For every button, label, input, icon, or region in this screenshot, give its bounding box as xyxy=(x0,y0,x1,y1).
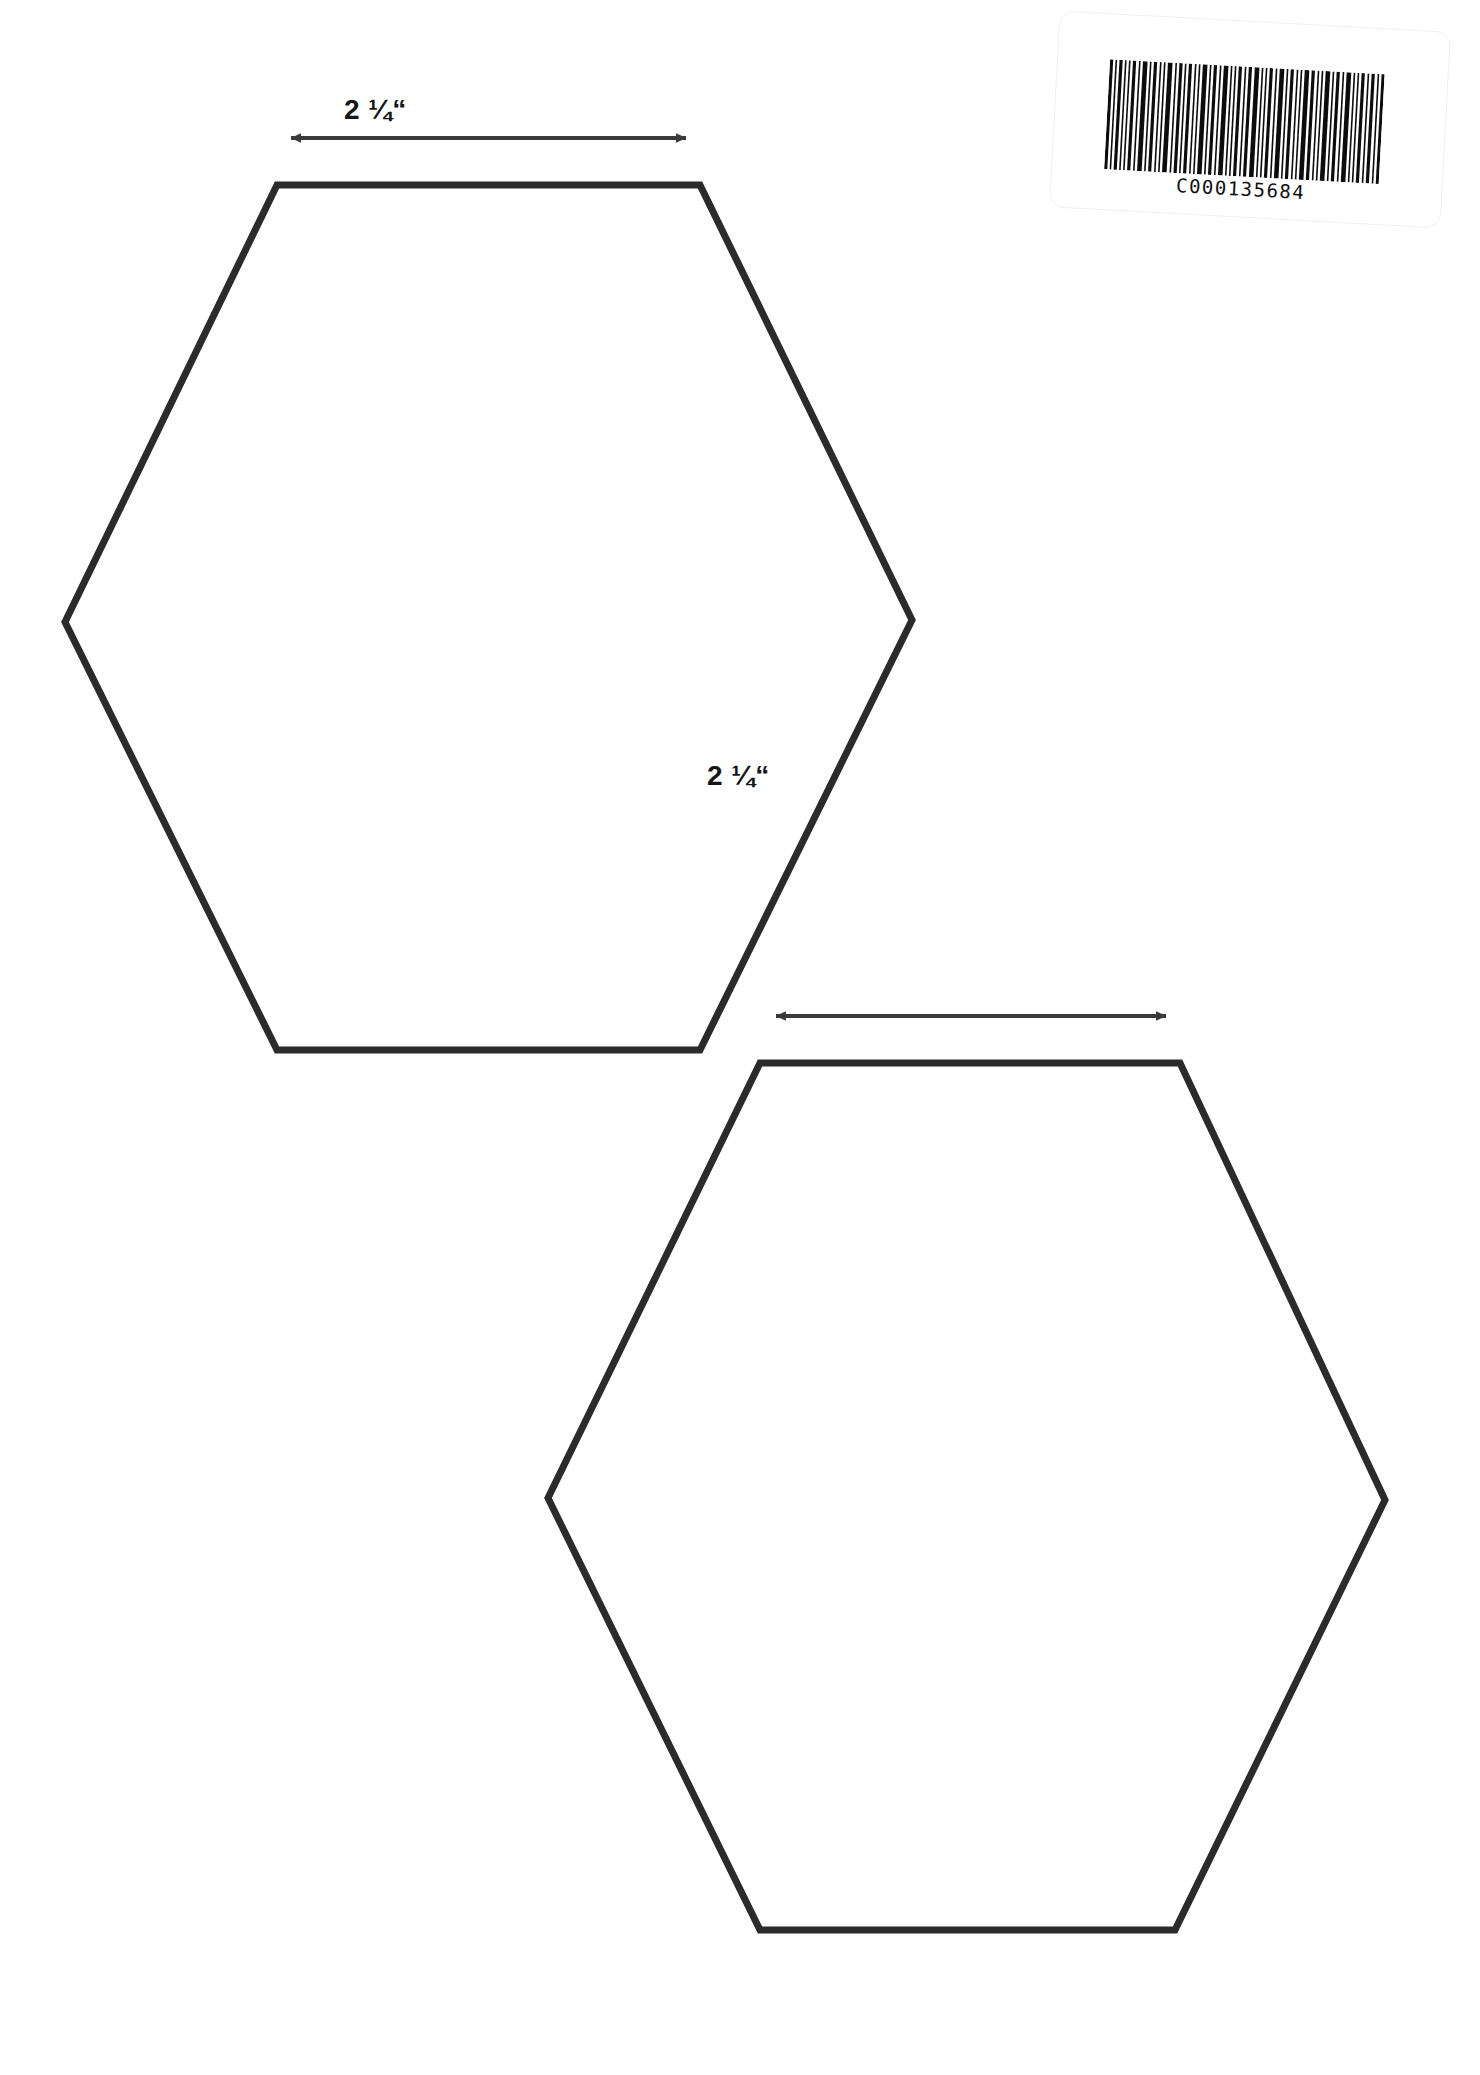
hexagon-top-left xyxy=(65,185,912,1050)
barcode-bars-icon xyxy=(1104,59,1385,184)
dimension-label-bottom-right: 2 ¼“ xyxy=(707,760,770,792)
shapes-layer xyxy=(0,0,1480,2075)
hexagon-template-page: 2 ¼“ 2 ¼“ xyxy=(0,0,1480,2075)
dimension-label-top-left: 2 ¼“ xyxy=(344,94,407,126)
hexagon-bottom-right xyxy=(548,1063,1385,1930)
barcode-sticker: C000135684 xyxy=(1050,12,1450,228)
